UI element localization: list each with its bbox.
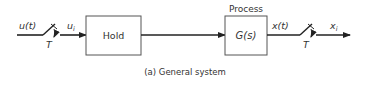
sampled-input-label: ui — [67, 20, 75, 33]
output-signal-label: x(t) — [271, 20, 289, 31]
hold-block-label: Hold — [103, 30, 125, 41]
process-title-label: Process — [229, 4, 263, 14]
sampler-rotation-arrow-icon — [311, 29, 312, 37]
sampler-rotation-arrow-icon — [54, 29, 55, 37]
sampled-output-label: xi — [329, 20, 338, 33]
input-signal-label: u(t) — [19, 20, 36, 31]
diagram-caption: (a) General system — [144, 67, 225, 77]
sampled-data-system-diagram: u(t) ui T Hold Process G(s) x(t) T xi (a… — [0, 0, 366, 85]
process-block-label: G(s) — [236, 30, 257, 41]
output-sampler-period-label: T — [303, 39, 310, 50]
input-sampler-period-label: T — [46, 39, 53, 50]
